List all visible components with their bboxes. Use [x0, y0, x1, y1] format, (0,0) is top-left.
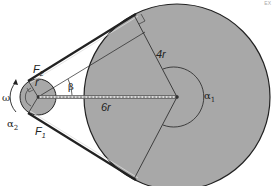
omega-arrowhead-icon: [13, 79, 18, 85]
label-F2: F2: [33, 63, 44, 77]
label-omega: ω: [2, 92, 10, 103]
label-center-distance: 6r: [101, 101, 112, 113]
belt-drive-diagram: F2 F1 ω α2 α1 β r 4r 6r: [0, 0, 273, 186]
omega-arrow: [10, 82, 16, 112]
label-beta: β: [68, 81, 74, 92]
label-alpha2: α2: [7, 118, 18, 132]
large-pulley: [84, 4, 270, 186]
label-F1: F1: [35, 125, 46, 139]
center-distance-link: [37, 95, 179, 99]
label-large-radius: 4r: [156, 48, 167, 60]
corner-mark: EX: [264, 0, 271, 6]
